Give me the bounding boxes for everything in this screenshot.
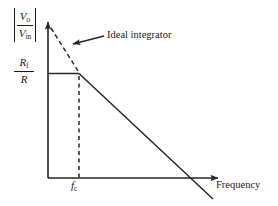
gain-numerator-subscript: f: [26, 61, 29, 70]
cutoff-frequency-tick-label: fc: [71, 180, 77, 191]
rf-over-r-fraction: Rf R: [14, 56, 34, 87]
y-axis-numerator: Vo: [19, 10, 31, 24]
y-axis-denominator: Vin: [18, 27, 33, 41]
cutoff-tick-subscript: c: [74, 184, 77, 193]
abs-bar-right: [35, 8, 36, 42]
ideal-integrator-annotation-label: Ideal integrator: [107, 30, 171, 41]
y-axis-denominator-subscript: in: [25, 31, 31, 40]
fraction-rule: [17, 25, 33, 26]
gain-fraction-rule: [14, 71, 34, 72]
y-axis-numerator-subscript: o: [27, 14, 31, 23]
gain-denominator: R: [14, 73, 34, 87]
gain-numerator: Rf: [14, 56, 34, 70]
integrator-frequency-response-figure: Vo Vin Rf R Ideal integrator fc Frequenc…: [0, 0, 278, 206]
ideal-integrator-annotation-arrow: [73, 36, 104, 44]
gain-tick-label: Rf R: [14, 56, 34, 87]
ideal-integrator-curve: [51, 28, 80, 74]
practical-integrator-rolloff: [79, 74, 213, 200]
vo-over-vin-fraction: Vo Vin: [17, 10, 33, 41]
x-axis-title: Frequency: [216, 180, 260, 191]
y-axis-label: Vo Vin: [12, 8, 38, 42]
abs-bar-left: [14, 8, 15, 42]
